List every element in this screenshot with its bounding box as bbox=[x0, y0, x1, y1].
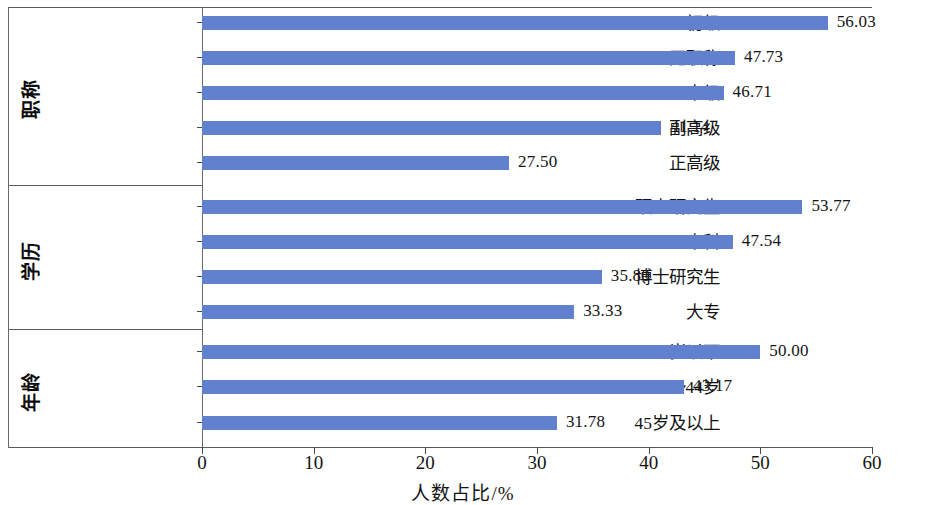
bar-row: 33.33 bbox=[202, 301, 872, 323]
bar-row: 31.78 bbox=[202, 412, 872, 434]
bar[interactable] bbox=[202, 416, 557, 430]
bar-row: 46.71 bbox=[202, 82, 872, 104]
plot-area: 56.03 47.73 46.71 41.14 27.50 53.77 bbox=[202, 7, 872, 447]
bar-row: 47.54 bbox=[202, 231, 872, 253]
bar-value-label: 47.73 bbox=[744, 46, 783, 68]
bar[interactable] bbox=[202, 305, 574, 319]
x-tick-label: 0 bbox=[172, 452, 232, 474]
x-tick-label: 60 bbox=[842, 452, 902, 474]
bar[interactable] bbox=[202, 121, 661, 135]
group-separator-2 bbox=[8, 329, 202, 330]
x-axis-title: 人数占比/% bbox=[0, 478, 926, 505]
x-tick-label: 40 bbox=[619, 452, 679, 474]
frame-bottom-line bbox=[8, 447, 872, 448]
bar[interactable] bbox=[202, 235, 733, 249]
bar-row: 41.14 bbox=[202, 117, 872, 139]
bar-value-label: 33.33 bbox=[583, 300, 622, 322]
bar-value-label: 43.17 bbox=[693, 375, 732, 397]
bar-row: 53.77 bbox=[202, 196, 872, 218]
group-label-job-title: 职称 bbox=[16, 78, 43, 120]
x-tick-label: 30 bbox=[507, 452, 567, 474]
group-separator-1 bbox=[8, 185, 202, 186]
bar-row: 50.00 bbox=[202, 341, 872, 363]
bar-value-label: 56.03 bbox=[837, 11, 876, 33]
bar[interactable] bbox=[202, 345, 760, 359]
bar-value-label: 46.71 bbox=[733, 81, 772, 103]
bar-value-label: 41.14 bbox=[670, 116, 709, 138]
bar-value-label: 31.78 bbox=[566, 411, 605, 433]
bar[interactable] bbox=[202, 156, 509, 170]
x-tick-label: 10 bbox=[284, 452, 344, 474]
bar-value-label: 47.54 bbox=[742, 230, 781, 252]
bar-value-label: 50.00 bbox=[769, 340, 808, 362]
chart-container: 职称 学历 年龄 初级 无职称 中级 副高级 正高级 硕士研究生 本科 博士研究… bbox=[0, 0, 926, 505]
bar[interactable] bbox=[202, 16, 828, 30]
bar[interactable] bbox=[202, 51, 735, 65]
x-tick-label: 50 bbox=[730, 452, 790, 474]
group-label-education: 学历 bbox=[16, 240, 43, 282]
bar-row: 35.80 bbox=[202, 266, 872, 288]
bar-row: 56.03 bbox=[202, 12, 872, 34]
bar[interactable] bbox=[202, 86, 724, 100]
bar[interactable] bbox=[202, 380, 684, 394]
x-tick-label: 20 bbox=[395, 452, 455, 474]
bar-row: 27.50 bbox=[202, 152, 872, 174]
bar[interactable] bbox=[202, 200, 802, 214]
bar-value-label: 27.50 bbox=[518, 151, 557, 173]
group-label-age: 年龄 bbox=[16, 371, 43, 413]
bar-row: 47.73 bbox=[202, 47, 872, 69]
bar-value-label: 35.80 bbox=[611, 265, 650, 287]
bar[interactable] bbox=[202, 270, 602, 284]
label-column-left-edge bbox=[8, 7, 9, 448]
bar-value-label: 53.77 bbox=[811, 195, 850, 217]
bar-row: 43.17 bbox=[202, 376, 872, 398]
